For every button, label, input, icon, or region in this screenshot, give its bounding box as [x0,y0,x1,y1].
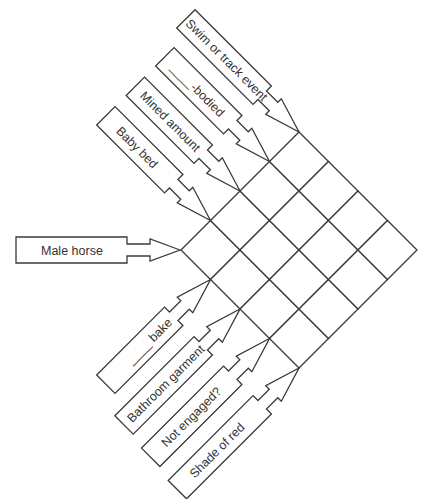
clue-male-horse[interactable]: Male horse [16,237,180,263]
crossword-puzzle: Baby bed Mined amount ____-bodied Swim o… [0,0,430,499]
clue-text: Male horse [41,244,103,258]
